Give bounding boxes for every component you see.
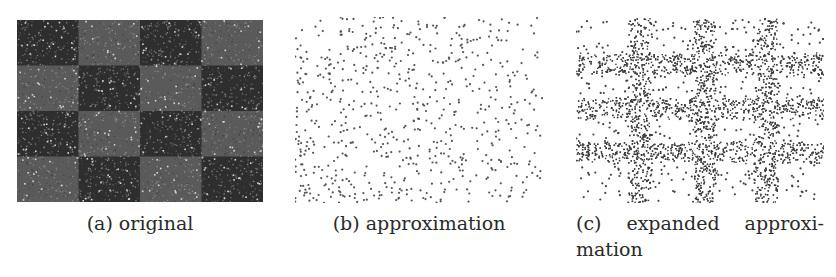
stipple-approximation-image bbox=[295, 17, 543, 203]
caption-text: approximation bbox=[366, 212, 506, 234]
caption-text: mation bbox=[576, 236, 824, 262]
caption-text: approxi- bbox=[745, 210, 824, 236]
subfigure-label: (b) bbox=[333, 212, 360, 234]
caption-text: expanded bbox=[626, 210, 719, 236]
subfigure-c-caption: (c) expanded approxi- mation bbox=[576, 210, 824, 262]
subfigure-a-caption: (a) original bbox=[17, 210, 263, 236]
subfigure-b-image bbox=[295, 17, 543, 203]
expanded-stipple-grid-image bbox=[576, 18, 824, 203]
caption-text: original bbox=[119, 212, 193, 234]
subfigure-a-image bbox=[17, 20, 263, 202]
subfigure-label: (c) bbox=[576, 210, 601, 236]
subfigure-label: (a) bbox=[87, 212, 113, 234]
checkerboard-noise-image bbox=[17, 20, 263, 202]
subfigure-c-image bbox=[576, 18, 824, 203]
subfigure-b-caption: (b) approximation bbox=[295, 210, 543, 236]
